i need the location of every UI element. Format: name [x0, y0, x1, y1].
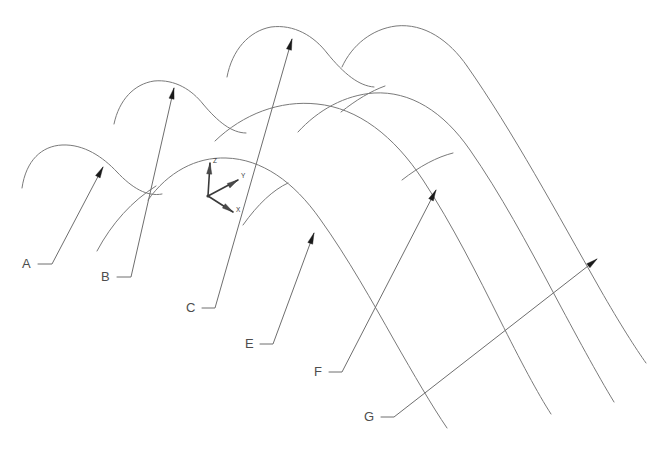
- callout-label-b: B: [101, 269, 110, 284]
- geometry-curve-arch-1-left-rib: [22, 145, 117, 188]
- arrow-head-g: [587, 259, 597, 268]
- leader-line-e: [260, 233, 314, 344]
- geometry-curve-rib-crossing-left: [97, 186, 156, 251]
- geometry-curve-arch-3-left-rib: [227, 27, 327, 77]
- geometry-curve-arch-4-outer-left: [342, 26, 467, 67]
- axis-label-z: Z: [213, 157, 217, 164]
- axis-label-y: Y: [241, 172, 246, 179]
- leader-line-group: [38, 39, 597, 417]
- geometry-curve-arch-2-left-rib: [114, 81, 203, 124]
- callout-label-group: ABCEFG: [22, 256, 375, 424]
- axis-arrow-x: [222, 204, 233, 212]
- coordinate-triad: ZYX: [206, 157, 246, 213]
- callout-label-g: G: [364, 409, 375, 424]
- axis-origin-marker: [206, 194, 209, 197]
- callout-label-e: E: [245, 336, 254, 351]
- axis-label-x: X: [236, 206, 241, 213]
- axis-arrow-y: [227, 180, 238, 188]
- leader-line-f: [329, 190, 436, 372]
- leader-line-a: [38, 167, 103, 264]
- leader-line-g: [381, 259, 597, 417]
- leader-line-b: [117, 88, 174, 277]
- arrow-head-c: [286, 39, 292, 50]
- arrow-head-e: [308, 233, 314, 244]
- geometry-curve-group: [22, 26, 646, 428]
- arrow-head-b: [169, 88, 174, 99]
- geometry-curve-surface-outer-rail: [298, 93, 614, 402]
- geometry-curve-rib-crossing-far: [402, 153, 453, 180]
- callout-label-c: C: [186, 300, 196, 315]
- callout-label-a: A: [22, 256, 31, 271]
- geometry-curve-arch-2-crest: [203, 104, 246, 133]
- geometry-curve-surface-top-rail: [148, 158, 447, 428]
- leader-line-c: [202, 39, 292, 308]
- geometry-curve-surface-mid-rail: [215, 103, 551, 414]
- arrow-head-a: [96, 167, 103, 178]
- geometry-curve-arch-4-outer-right: [467, 66, 646, 363]
- cad-drawing-svg: ZYX ABCEFG: [0, 0, 671, 470]
- geometry-curve-arch-3-crest: [327, 53, 374, 87]
- technical-drawing-canvas: ZYX ABCEFG: [0, 0, 671, 470]
- geometry-curve-rib-short-upper: [341, 86, 385, 112]
- callout-label-f: F: [314, 364, 322, 379]
- geometry-curve-rib-crossing-mid: [243, 183, 288, 225]
